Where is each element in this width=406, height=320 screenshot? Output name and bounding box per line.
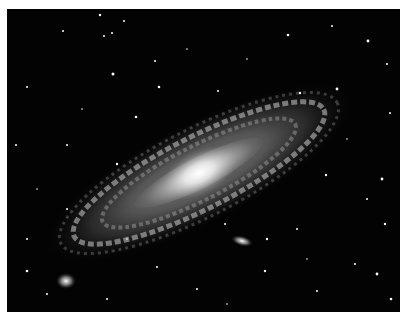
companion-galaxy-lower-middle: [230, 233, 254, 248]
galaxy-disk: [25, 51, 373, 294]
galaxy-illustration: [7, 9, 400, 312]
galaxy-photo: [7, 9, 400, 312]
companion-galaxy-lower-left: [56, 273, 76, 289]
